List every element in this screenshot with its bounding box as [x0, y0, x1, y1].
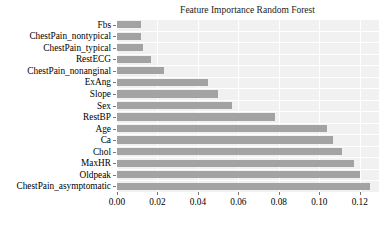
y-axis-tick-labels: FbsChestPain_nontypicalChestPain_typical…	[0, 19, 386, 192]
y-axis-tick-label: RestBP	[0, 112, 111, 122]
x-axis-tick-mark	[319, 192, 320, 195]
y-axis-tick-label: ChestPain_nonanginal	[0, 66, 111, 76]
y-axis-tick-label: ChestPain_typical	[0, 43, 111, 53]
x-axis-tick-mark	[198, 192, 199, 195]
chart-title: Feature Importance Random Forest	[117, 3, 378, 17]
y-axis-tick-mark	[113, 36, 116, 37]
y-axis-tick-mark	[113, 129, 116, 130]
y-axis-tick-label: ExAng	[0, 77, 111, 87]
y-axis-tick-mark	[113, 82, 116, 83]
y-axis-tick-mark	[113, 140, 116, 141]
x-axis-tick-mark	[238, 192, 239, 195]
y-axis-tick-label: RestECG	[0, 54, 111, 64]
y-axis-tick-label: Oldpeak	[0, 170, 111, 180]
y-axis-tick-mark	[113, 117, 116, 118]
y-axis-tick-label: MaxHR	[0, 158, 111, 168]
y-axis-tick-label: Ca	[0, 135, 111, 145]
x-axis-tick-mark	[360, 192, 361, 195]
x-axis-tick-label: 0.06	[218, 196, 258, 208]
x-axis-tick-label: 0.10	[299, 196, 339, 208]
x-axis-tick-label: 0.00	[97, 196, 137, 208]
y-axis-tick-mark	[113, 71, 116, 72]
x-axis-tick-mark	[279, 192, 280, 195]
y-axis-tick-label: Fbs	[0, 20, 111, 30]
y-axis-tick-mark	[113, 175, 116, 176]
x-axis-tick-label: 0.08	[259, 196, 299, 208]
y-axis-tick-label: Slope	[0, 89, 111, 99]
y-axis-tick-label: ChestPain_nontypical	[0, 31, 111, 41]
x-axis-tick-labels: 0.000.020.040.060.080.100.12	[0, 196, 386, 210]
y-axis-tick-mark	[113, 48, 116, 49]
y-axis-tick-mark	[113, 186, 116, 187]
y-axis-tick-label: Age	[0, 124, 111, 134]
x-axis-tick-label: 0.12	[340, 196, 380, 208]
y-axis-tick-mark	[113, 106, 116, 107]
y-axis-tick-label: ChestPain_asymptomatic	[0, 181, 111, 191]
y-axis-tick-mark	[113, 59, 116, 60]
x-axis-tick-mark	[157, 192, 158, 195]
y-axis-tick-mark	[113, 163, 116, 164]
x-axis-tick-label: 0.02	[137, 196, 177, 208]
y-axis-tick-label: Sex	[0, 101, 111, 111]
y-axis-tick-mark	[113, 152, 116, 153]
y-axis-tick-mark	[113, 25, 116, 26]
y-axis-tick-mark	[113, 94, 116, 95]
x-axis-tick-mark	[117, 192, 118, 195]
chart-figure: Feature Importance Random Forest FbsChes…	[0, 0, 386, 225]
x-axis-tick-label: 0.04	[178, 196, 218, 208]
y-axis-tick-label: Chol	[0, 147, 111, 157]
